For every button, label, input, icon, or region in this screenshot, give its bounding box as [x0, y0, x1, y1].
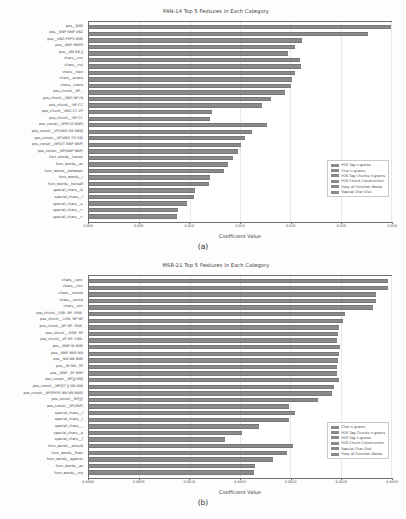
y-axis-label: pos__NNS _SP NNP	[0, 371, 86, 377]
bar	[89, 97, 271, 101]
bar	[89, 312, 345, 316]
y-axis-label: pos_constr__NP|JJ|	[0, 397, 86, 403]
x-tick-label: 0.015	[235, 224, 245, 228]
legend-item: Char n-grams	[331, 169, 385, 173]
y-axis-label: special_chars__|	[0, 417, 86, 423]
bar	[89, 136, 245, 140]
x-tick-label: 0.005	[134, 224, 144, 228]
y-axis-label: special_chars__>	[0, 215, 86, 221]
y-axis-label: special_chars__,	[0, 424, 86, 430]
bar	[89, 45, 295, 49]
figure-page: PAN-14 Top 5 Features in Each Category p…	[0, 0, 406, 519]
y-axis-label: pos__NNP IN NNS	[0, 344, 86, 350]
y-axis-label: pos_constr__VP|VBD TO VB|	[0, 136, 86, 142]
legend-swatch-icon	[331, 169, 339, 172]
bar	[89, 123, 267, 127]
y-axis-label: pos_chunk__-LRB- NP NP	[0, 317, 86, 323]
bar-row	[89, 201, 391, 207]
bar-row	[89, 410, 391, 416]
legend-swatch-icon	[331, 426, 339, 429]
bar-row	[89, 57, 391, 63]
bar-row	[89, 331, 391, 337]
bar-row	[89, 70, 391, 76]
tick-mark	[392, 222, 393, 224]
x-tick-label: 0.0005	[133, 480, 145, 484]
bar-row	[89, 351, 391, 357]
y-axis-label: pos__VBG PRP$ NNS	[0, 37, 86, 43]
figure-panel-b: MSR-21 Top 5 Features in Each Category c…	[0, 262, 406, 514]
legend-item: POS Tag n-grams	[331, 436, 385, 440]
bar	[89, 25, 391, 29]
bar	[89, 195, 194, 199]
x-tick-label: 0.0030	[386, 480, 398, 484]
bar	[89, 464, 255, 468]
bar	[89, 305, 373, 309]
bar-row	[89, 404, 391, 410]
legend-item: Special Char Dist.	[331, 190, 385, 194]
chart-title-b: MSR-21 Top 5 Features in Each Category	[0, 262, 406, 268]
bar	[89, 175, 210, 179]
bar	[89, 77, 292, 81]
bar	[89, 404, 289, 408]
bar	[89, 358, 338, 362]
bar	[89, 398, 318, 402]
bar-row	[89, 24, 391, 30]
bar-row	[89, 96, 391, 102]
y-axis-labels-b: chars__concchars__cincchars__conciechars…	[0, 275, 86, 479]
bar	[89, 319, 343, 323]
y-axis-label: pos_constr__NPECO NNPJ	[0, 122, 86, 128]
bar-row	[89, 136, 391, 142]
bar-row	[89, 64, 391, 70]
bar-row	[89, 38, 391, 44]
y-axis-label: func_words__as	[0, 464, 86, 470]
y-axis-label: special_chars__<	[0, 208, 86, 214]
y-axis-label: chars__ctans	[0, 83, 86, 89]
x-tick-label: 0.025	[336, 224, 346, 228]
legend-label: Freq. of Function Words	[341, 185, 382, 189]
bar-row	[89, 109, 391, 115]
legend-swatch-icon	[331, 431, 339, 434]
tick-mark	[341, 478, 342, 480]
bar	[89, 345, 340, 349]
bar	[89, 325, 339, 329]
y-axis-label: pos_chunk__NP NP -SUB-	[0, 324, 86, 330]
bar	[89, 110, 212, 114]
y-axis-label: chars__cinc	[0, 284, 86, 290]
bar	[89, 90, 285, 94]
legend-swatch-icon	[331, 442, 339, 445]
y-axis-label: special_chars__a	[0, 431, 86, 437]
bar-row	[89, 384, 391, 390]
bar	[89, 279, 388, 283]
bar	[89, 424, 259, 428]
bar-row	[89, 397, 391, 403]
legend-b: Char n-gramsPOS Tag Chunks n-gramsPOS Ta…	[327, 422, 389, 459]
bar	[89, 182, 209, 186]
subcaption-b: (b)	[0, 498, 406, 507]
grid-line	[391, 276, 392, 478]
y-axis-label: chars__nur	[0, 56, 86, 62]
bar	[89, 371, 337, 375]
legend-swatch-icon	[331, 174, 339, 177]
bar	[89, 208, 178, 212]
legend-label: Freq. of Function Words	[341, 452, 382, 456]
bar	[89, 385, 334, 389]
x-tick-label: 0.020	[286, 224, 296, 228]
bar	[89, 156, 233, 160]
bar-row	[89, 298, 391, 304]
bar	[89, 299, 376, 303]
y-axis-label: chars__concie	[0, 291, 86, 297]
legend-label: POS Tag Chunks n-grams	[341, 431, 385, 435]
y-axis-label: func_words__i	[0, 175, 86, 181]
legend-swatch-icon	[331, 164, 339, 167]
legend-label: POS Tag Chunks n-grams	[341, 174, 385, 178]
bar-row	[89, 83, 391, 89]
y-axis-label: pos_chunk__-RRB- SP	[0, 331, 86, 337]
x-axis-ticks-b: 0.00000.00050.00100.00150.00200.00250.00…	[88, 480, 392, 489]
y-axis-label: pos_constr__NP|DT JJ NN NN|	[0, 384, 86, 390]
y-axis-label: special_chars__&	[0, 188, 86, 194]
bar	[89, 38, 302, 42]
bar	[89, 338, 337, 342]
bar-row	[89, 90, 391, 96]
y-axis-label: pos_chunk__LRB- NP -RRB-	[0, 311, 86, 317]
bar	[89, 214, 177, 218]
